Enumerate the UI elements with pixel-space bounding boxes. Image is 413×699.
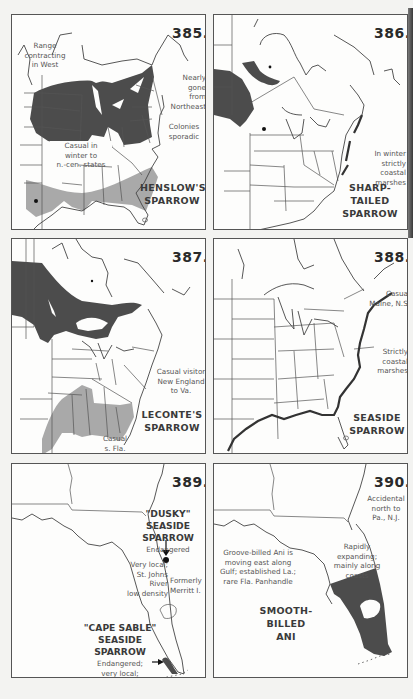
map-number: 387. bbox=[172, 249, 206, 265]
note-line: River bbox=[122, 579, 168, 589]
note-nearly-gone: Nearly gone from Northeast bbox=[160, 73, 206, 111]
note-line: Casual in bbox=[50, 141, 112, 151]
title-line: ANI bbox=[254, 630, 318, 643]
note-line: n.-cen. states bbox=[50, 160, 112, 170]
note-line: Colonies bbox=[162, 122, 206, 132]
species-title: SMOOTH- BILLED ANI bbox=[254, 604, 318, 643]
map-388-seaside-sparrow: 388. Casual Maine, N.S. Strictly coastal… bbox=[213, 238, 408, 454]
species-title: HENSLOW'S SPARROW bbox=[140, 181, 204, 207]
note-line: Merritt I. bbox=[170, 586, 206, 596]
note-line: marshes bbox=[368, 366, 408, 376]
note-rapidly-expanding: Rapidly expanding; mainly along coasts bbox=[330, 542, 384, 580]
title-line: LECONTE'S bbox=[140, 408, 204, 421]
note-line: Nearly bbox=[160, 73, 206, 83]
species-title: SEASIDE SPARROW bbox=[348, 411, 406, 437]
note-line: Range bbox=[18, 41, 72, 51]
title-line: BILLED bbox=[254, 617, 318, 630]
species-title: LECONTE'S SPARROW bbox=[140, 408, 204, 434]
map-386-sharp-tailed-sparrow: 386. In winter strictly coastal marshes … bbox=[213, 14, 408, 230]
note-line: contracting bbox=[18, 51, 72, 61]
title-line: SEASIDE bbox=[348, 411, 406, 424]
map-389-seaside-sparrow-subspecies: 389. "DUSKY" SEASIDE SPARROW Endangered … bbox=[11, 463, 206, 678]
map-number: 385. bbox=[172, 25, 206, 41]
note-line: winter to bbox=[50, 151, 112, 161]
title-line: SPARROW bbox=[332, 207, 408, 220]
map-number: 390. bbox=[374, 474, 408, 490]
title-line: SPARROW bbox=[140, 421, 204, 434]
note-line: SPARROW bbox=[132, 532, 204, 544]
cape-sable-seaside-sparrow-label: "CAPE SABLE" SEASIDE SPARROW bbox=[78, 622, 162, 658]
note-line: SEASIDE bbox=[78, 634, 162, 646]
note-line: gone bbox=[160, 83, 206, 93]
note-line: low density bbox=[122, 589, 168, 599]
title-line: HENSLOW'S bbox=[140, 181, 204, 194]
note-line: Northeast bbox=[160, 102, 206, 112]
note-line: coastal bbox=[362, 168, 406, 178]
note-line: SEASIDE bbox=[132, 520, 204, 532]
note-line: Strictly bbox=[368, 347, 408, 357]
note-cape-sable-endangered: Endangered; very local; low density bbox=[92, 659, 148, 678]
dusky-seaside-sparrow-label: "DUSKY" SEASIDE SPARROW bbox=[132, 508, 204, 544]
note-range-contracting: Range contracting in West bbox=[18, 41, 72, 70]
note-line: "DUSKY" bbox=[132, 508, 204, 520]
note-line: north to bbox=[364, 504, 408, 514]
note-accidental-north: Accidental north to Pa., N.J. bbox=[364, 494, 408, 523]
note-line: Endangered; bbox=[92, 659, 148, 669]
note-line: strictly bbox=[362, 159, 406, 169]
note-line: Accidental bbox=[364, 494, 408, 504]
note-line: In winter bbox=[362, 149, 406, 159]
title-line: SMOOTH- bbox=[254, 604, 318, 617]
title-line: SHARP-TAILED bbox=[332, 181, 408, 207]
note-line: to Va. bbox=[154, 386, 206, 396]
note-line: Groove-billed Ani is bbox=[216, 548, 300, 558]
map-number: 388. bbox=[374, 249, 408, 265]
note-formerly-merritt: Formerly Merritt I. bbox=[170, 576, 206, 595]
note-line: Casual bbox=[360, 289, 408, 299]
note-casual-maine: Casual Maine, N.S. bbox=[360, 289, 408, 308]
note-st-johns-river: Very local; St. Johns River low density bbox=[122, 560, 168, 598]
note-line: Maine, N.S. bbox=[360, 299, 408, 309]
note-line: New England bbox=[154, 377, 206, 387]
map-number: 386. bbox=[374, 25, 408, 41]
species-title: SHARP-TAILED SPARROW bbox=[332, 181, 408, 220]
note-casual-visitor: Casual visitor New England to Va. bbox=[154, 367, 206, 396]
note-casual-s-fla: Casual s. Fla. bbox=[100, 434, 130, 453]
note-strictly-coastal: Strictly coastal marshes bbox=[368, 347, 408, 376]
note-line: Very local; bbox=[122, 560, 168, 570]
note-colonies-sporadic: Colonies sporadic bbox=[162, 122, 206, 141]
note-line: coasts bbox=[330, 571, 384, 581]
note-line: very local; bbox=[92, 669, 148, 679]
note-line: Endangered bbox=[132, 545, 204, 555]
note-line: moving east along bbox=[216, 558, 300, 568]
map-387-lecontes-sparrow: 387. Casual visitor New England to Va. L… bbox=[11, 238, 206, 454]
note-line: "CAPE SABLE" bbox=[78, 622, 162, 634]
note-line: in West bbox=[18, 60, 72, 70]
note-line: Casual bbox=[100, 434, 130, 444]
note-line: from bbox=[160, 92, 206, 102]
note-casual-winter: Casual in winter to n.-cen. states bbox=[50, 141, 112, 170]
note-line: Gulf; established La.; bbox=[216, 567, 300, 577]
note-line: mainly along bbox=[330, 561, 384, 571]
map-385-henslows-sparrow: 385. Range contracting in West Nearly go… bbox=[11, 14, 206, 230]
note-line: coastal bbox=[368, 357, 408, 367]
note-line: Formerly bbox=[170, 576, 206, 586]
note-groove-billed-ani: Groove-billed Ani is moving east along G… bbox=[216, 548, 300, 586]
note-line: sporadic bbox=[162, 132, 206, 142]
note-line: Pa., N.J. bbox=[364, 513, 408, 523]
note-dusky-endangered: Endangered bbox=[132, 545, 204, 555]
note-line: Rapidly bbox=[330, 542, 384, 552]
map-390-smooth-billed-ani: 390. Accidental north to Pa., N.J. Rapid… bbox=[213, 463, 408, 678]
note-line: expanding; bbox=[330, 552, 384, 562]
note-line: St. Johns bbox=[122, 570, 168, 580]
note-line: rare Fla. Panhandle bbox=[216, 577, 300, 587]
map-number: 389. bbox=[172, 474, 206, 490]
page-edge-shadow bbox=[408, 8, 413, 238]
title-line: SPARROW bbox=[348, 424, 406, 437]
note-line: s. Fla. bbox=[100, 444, 130, 454]
note-line: Casual visitor bbox=[154, 367, 206, 377]
title-line: SPARROW bbox=[140, 194, 204, 207]
note-line: SPARROW bbox=[78, 646, 162, 658]
